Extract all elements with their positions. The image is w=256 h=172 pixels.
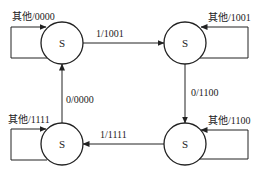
state-label: S xyxy=(182,138,188,150)
transition-label: 0/0000 xyxy=(66,94,94,105)
self-loop-label: 其他/1111 xyxy=(8,113,50,125)
self-loop-tr: 其他/1001 xyxy=(200,11,251,58)
state-top-left: S xyxy=(41,22,83,64)
transition-label: 0/1100 xyxy=(191,87,218,98)
transition-tl-tr: 1/1001 xyxy=(83,28,164,43)
self-loop-label: 其他/1001 xyxy=(208,11,251,23)
transition-bl-tl: 0/0000 xyxy=(62,64,94,123)
state-label: S xyxy=(59,37,65,49)
self-loop-label: 其他/0000 xyxy=(12,10,55,22)
state-bottom-left: S xyxy=(41,123,83,165)
state-label: S xyxy=(59,138,65,150)
state-diagram: S S S S 1/1001 0/1100 1/1111 0/0000 其他/0… xyxy=(0,0,256,172)
transition-br-bl: 1/1111 xyxy=(83,129,164,144)
self-loop-br: 其他/1100 xyxy=(199,114,250,159)
transition-label: 1/1001 xyxy=(96,28,124,39)
transition-label: 1/1111 xyxy=(100,129,127,140)
state-label: S xyxy=(182,37,188,49)
self-loop-label: 其他/1100 xyxy=(208,114,250,126)
state-top-right: S xyxy=(164,22,206,64)
